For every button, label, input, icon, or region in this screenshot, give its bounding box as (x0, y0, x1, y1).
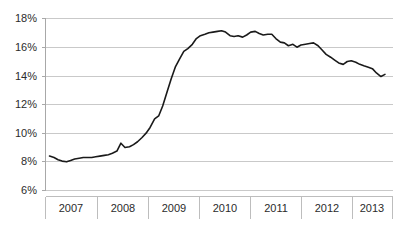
x-axis-label-2013: 2013 (360, 202, 384, 214)
line-chart: 18% 16% 14% 12% 10% 8% 6% 2007 2008 2009… (0, 0, 399, 230)
y-axis-label-8: 8% (21, 155, 37, 167)
x-axis-label-2007: 2007 (59, 202, 83, 214)
x-axis-label-2008: 2008 (111, 202, 135, 214)
y-axis-label-6: 6% (21, 184, 37, 196)
chart-canvas: 18% 16% 14% 12% 10% 8% 6% 2007 2008 2009… (0, 0, 399, 230)
data-line-rate (50, 31, 385, 162)
y-axis: 18% 16% 14% 12% 10% 8% 6% (15, 12, 46, 196)
y-axis-label-12: 12% (15, 98, 37, 110)
x-axis-label-2011: 2011 (264, 202, 288, 214)
x-axis-label-2012: 2012 (315, 202, 339, 214)
y-axis-label-14: 14% (15, 70, 37, 82)
x-axis: 2007 2008 2009 2010 2011 2012 2013 (46, 197, 393, 219)
x-axis-label-2009: 2009 (162, 202, 186, 214)
gridlines (46, 19, 393, 191)
x-axis-label-2010: 2010 (213, 202, 237, 214)
y-axis-label-18: 18% (15, 12, 37, 24)
y-axis-label-10: 10% (15, 127, 37, 139)
y-axis-label-16: 16% (15, 41, 37, 53)
